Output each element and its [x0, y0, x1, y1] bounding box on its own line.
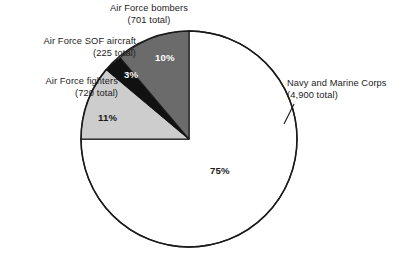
- callout-air-force-sof-aircraft-total: (225 total): [4, 48, 136, 60]
- callout-navy-and-marine-corps: Navy and Marine Corps (4,900 total): [287, 78, 403, 101]
- callout-navy-and-marine-corps-total: (4,900 total): [287, 90, 403, 102]
- slice-percent-navy-and-marine-corps: 75%: [210, 165, 230, 176]
- callout-air-force-sof-aircraft-title: Air Force SOF aircraft: [44, 36, 136, 46]
- pie-chart-figure: Air Force bombers (701 total) Air Force …: [0, 0, 405, 259]
- callout-air-force-bombers: Air Force bombers (701 total): [92, 3, 206, 26]
- callout-air-force-bombers-total: (701 total): [92, 15, 206, 27]
- slice-percent-air-force-fighters: 11%: [98, 112, 117, 123]
- callout-air-force-sof-aircraft: Air Force SOF aircraft (225 total): [4, 36, 136, 59]
- slice-percent-air-force-sof-aircraft: 3%: [124, 69, 138, 80]
- callout-navy-and-marine-corps-title: Navy and Marine Corps: [287, 78, 387, 88]
- callout-air-force-fighters-total: (720 total): [2, 88, 118, 100]
- callout-air-force-bombers-title: Air Force bombers: [110, 3, 188, 13]
- callout-air-force-fighters: Air Force fighters (720 total): [2, 76, 118, 99]
- slice-percent-air-force-bombers: 10%: [155, 52, 175, 63]
- callout-air-force-fighters-title: Air Force fighters: [46, 76, 118, 86]
